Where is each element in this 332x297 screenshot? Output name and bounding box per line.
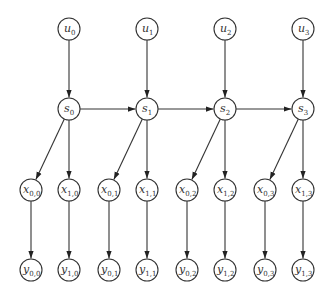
node-y00: y0,0 [20, 259, 42, 281]
node-y01: y0,1 [98, 259, 120, 281]
node-x12: x1,2 [214, 179, 236, 201]
node-s3: s3 [292, 98, 314, 120]
node-x13: x1,3 [292, 179, 314, 201]
node-u2: u2 [214, 18, 236, 40]
nodes: u0u1u2u3s0s1s2s3x0,0x1,0x0,1x1,1x0,2x1,2… [20, 18, 314, 281]
node-x10: x1,0 [58, 179, 80, 201]
node-y12: y1,2 [214, 259, 236, 281]
node-s2: s2 [214, 98, 236, 120]
node-x01: x0,1 [98, 179, 120, 201]
node-x03: x0,3 [254, 179, 276, 201]
node-x00: x0,0 [20, 179, 42, 201]
node-x11: x1,1 [136, 179, 158, 201]
node-y11: y1,1 [136, 259, 158, 281]
graphical-model-diagram: u0u1u2u3s0s1s2s3x0,0x1,0x0,1x1,1x0,2x1,2… [0, 0, 332, 297]
node-x02: x0,2 [176, 179, 198, 201]
node-y02: y0,2 [176, 259, 198, 281]
node-y13: y1,3 [292, 259, 314, 281]
node-u0: u0 [58, 18, 80, 40]
node-y10: y1,0 [58, 259, 80, 281]
node-s1: s1 [136, 98, 158, 120]
node-u1: u1 [136, 18, 158, 40]
edge-s2-x02 [192, 119, 220, 180]
edge-s0-x00 [36, 119, 64, 180]
edges [31, 40, 303, 259]
edge-s3-x03 [270, 119, 298, 180]
node-u3: u3 [292, 18, 314, 40]
node-s0: s0 [58, 98, 80, 120]
edge-s1-x01 [114, 119, 142, 180]
node-y03: y0,3 [254, 259, 276, 281]
